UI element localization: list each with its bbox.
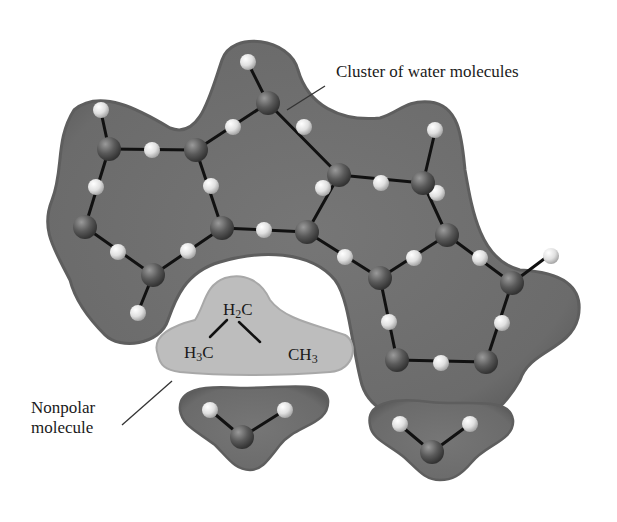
- nonpolar-label-line1: Nonpolar: [31, 398, 95, 417]
- formula-ch3: CH3: [288, 346, 318, 364]
- nonpolar-label-line2: molecule: [31, 418, 93, 437]
- nonpolar-pointer-line: [122, 381, 172, 425]
- formula-h3c: H3C: [184, 344, 214, 362]
- water-cluster-diagram: Cluster of water molecules Nonpolar mole…: [0, 0, 617, 522]
- diagram-canvas: [0, 0, 617, 522]
- cluster-label: Cluster of water molecules: [336, 62, 519, 81]
- small-water-cluster-right: [370, 400, 514, 480]
- formula-h2c: H2C: [223, 301, 253, 319]
